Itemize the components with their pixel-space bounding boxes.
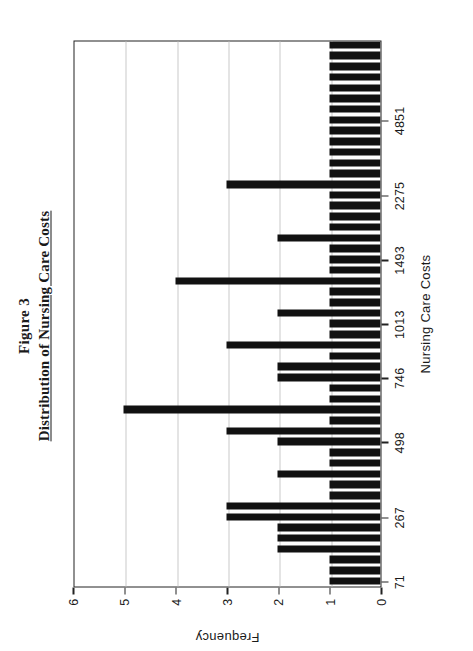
- histogram-bar: [329, 105, 380, 113]
- histogram-bar: [277, 309, 380, 317]
- histogram-bar: [329, 255, 380, 263]
- cost-tick-label: 267: [392, 507, 406, 528]
- histogram-bar: [329, 51, 380, 59]
- histogram-bar: [329, 448, 380, 456]
- histogram-bar: [329, 459, 380, 467]
- histogram-bar: [277, 534, 380, 542]
- frequency-tick-label: 1: [323, 598, 337, 605]
- histogram-bar: [329, 41, 380, 48]
- cost-tick-mark: [381, 195, 388, 197]
- histogram-bar: [123, 405, 380, 413]
- histogram-bar: [329, 266, 380, 274]
- cost-tick-label: 71: [392, 574, 406, 588]
- histogram-bar: [226, 502, 380, 510]
- histogram-bar: [329, 126, 380, 134]
- histogram-bar: [277, 470, 380, 478]
- histogram-bar: [329, 384, 380, 392]
- frequency-tick-label: 5: [117, 598, 131, 605]
- frequency-axis-title: Frequency: [127, 630, 327, 645]
- histogram-bar: [329, 352, 380, 360]
- cost-tick-mark: [381, 581, 388, 583]
- frequency-tick-mark: [329, 587, 331, 594]
- cost-tick-label: 1493: [392, 246, 406, 275]
- histogram-bar: [329, 159, 380, 167]
- histogram-bar: [226, 427, 380, 435]
- histogram-bar: [277, 362, 380, 370]
- frequency-tick-label: 0: [374, 598, 388, 605]
- cost-tick-mark: [381, 259, 388, 261]
- histogram-bar: [329, 577, 380, 585]
- frequency-axis: Frequency 0123456: [73, 587, 381, 651]
- cost-tick-label: 746: [392, 367, 406, 388]
- histogram-bar: [329, 137, 380, 145]
- plot-area: [73, 40, 381, 587]
- figure-caption: Distribution of Nursing Care Costs: [33, 0, 53, 651]
- cost-tick-mark: [381, 323, 388, 325]
- cost-tick-mark: [381, 517, 388, 519]
- histogram-bar: [329, 191, 380, 199]
- figure-number: Figure 3: [14, 0, 33, 651]
- nursing-care-costs-axis: 712674987461013149322754851 Nursing Care…: [381, 40, 461, 587]
- cost-tick-label: 1013: [392, 310, 406, 339]
- frequency-tick-mark: [124, 587, 126, 594]
- histogram-bar: [329, 244, 380, 252]
- frequency-tick-mark: [175, 587, 177, 594]
- frequency-tick-label: 3: [220, 598, 234, 605]
- histogram-bar: [329, 169, 380, 177]
- histogram-bar: [277, 234, 380, 242]
- histogram-bar: [329, 94, 380, 102]
- histogram-bar: [329, 223, 380, 231]
- histogram-bar: [329, 491, 380, 499]
- histogram-bar: [329, 480, 380, 488]
- figure-title-block: Figure 3 Distribution of Nursing Care Co…: [14, 0, 53, 651]
- histogram-bar: [329, 202, 380, 210]
- histogram-bar: [329, 395, 380, 403]
- frequency-tick-mark: [226, 587, 228, 594]
- histogram-bar: [329, 116, 380, 124]
- rotated-figure-canvas: Figure 3 Distribution of Nursing Care Co…: [0, 0, 473, 651]
- histogram-bar: [329, 319, 380, 327]
- frequency-tick-label: 4: [169, 598, 183, 605]
- frequency-tick-mark: [72, 587, 74, 594]
- cost-tick-mark: [381, 120, 388, 122]
- histogram-bar: [329, 62, 380, 70]
- histogram-bar: [277, 373, 380, 381]
- histogram-bars: [74, 41, 380, 586]
- frequency-tick-label: 6: [66, 598, 80, 605]
- frequency-tick-mark: [278, 587, 280, 594]
- histogram-bar: [175, 277, 380, 285]
- cost-tick-label: 498: [392, 431, 406, 452]
- histogram-bar: [329, 416, 380, 424]
- frequency-tick-label: 2: [271, 598, 285, 605]
- histogram-bar: [329, 73, 380, 81]
- histogram-bar: [329, 566, 380, 574]
- histogram-bar: [277, 437, 380, 445]
- histogram-bar: [329, 287, 380, 295]
- histogram-bar: [226, 513, 380, 521]
- cost-tick-label: 2275: [392, 181, 406, 210]
- histogram-bar: [226, 341, 380, 349]
- histogram-bar: [329, 298, 380, 306]
- histogram-bar: [329, 212, 380, 220]
- histogram-bar: [329, 330, 380, 338]
- cost-axis-title: Nursing Care Costs: [417, 40, 432, 587]
- histogram-bar: [226, 180, 380, 188]
- figure-page: Figure 3 Distribution of Nursing Care Co…: [0, 0, 473, 651]
- frequency-tick-mark: [380, 587, 382, 594]
- histogram-bar: [277, 545, 380, 553]
- histogram-bar: [277, 523, 380, 531]
- histogram-bar: [329, 555, 380, 563]
- cost-tick-mark: [381, 441, 388, 443]
- cost-tick-mark: [381, 377, 388, 379]
- cost-tick-label: 4851: [392, 106, 406, 135]
- histogram-bar: [329, 148, 380, 156]
- histogram-bar: [329, 84, 380, 92]
